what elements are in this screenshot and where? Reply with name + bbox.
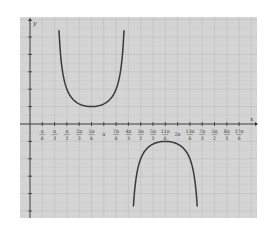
svg-text:π: π [41,129,44,134]
svg-text:6: 6 [90,136,93,141]
svg-text:4π: 4π [125,129,131,134]
svg-text:6: 6 [41,136,44,141]
svg-text:3: 3 [201,136,204,141]
svg-text:13π: 13π [185,129,194,134]
y-axis-label: y [32,19,37,27]
plot-background [20,17,257,218]
svg-text:2π: 2π [76,129,82,134]
svg-text:11π: 11π [161,129,170,134]
svg-text:7π: 7π [113,129,119,134]
svg-text:8π: 8π [224,129,230,134]
svg-text:5π: 5π [212,129,218,134]
svg-text:2: 2 [65,136,68,141]
csc-graph: π6π3π22π35π6π7π64π33π25π311π62π13π67π35π… [0,0,268,245]
svg-text:5π: 5π [89,129,95,134]
svg-text:3π: 3π [138,129,144,134]
svg-text:2: 2 [213,136,216,141]
svg-text:2π: 2π [175,132,181,137]
svg-text:6: 6 [238,136,241,141]
svg-text:π: π [102,132,105,137]
svg-text:2: 2 [139,136,142,141]
x-tick-label: 2π [175,132,181,137]
svg-text:3: 3 [225,136,228,141]
svg-text:3: 3 [127,136,130,141]
svg-text:π: π [53,129,56,134]
svg-text:3: 3 [53,136,56,141]
svg-text:3: 3 [78,136,81,141]
svg-text:6: 6 [188,136,191,141]
svg-text:3: 3 [152,136,155,141]
svg-text:π: π [65,129,68,134]
svg-text:6: 6 [115,136,118,141]
x-tick-label: π [102,132,105,137]
svg-text:17π: 17π [235,129,244,134]
svg-text:7π: 7π [199,129,205,134]
svg-text:6: 6 [164,136,167,141]
svg-text:5π: 5π [150,129,156,134]
